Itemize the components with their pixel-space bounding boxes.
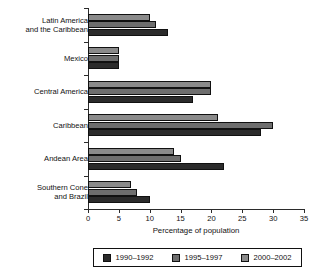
legend-label: 2000–2002 — [253, 253, 291, 262]
bar-group — [88, 142, 304, 176]
x-tick-label: 5 — [107, 214, 131, 223]
bar — [88, 88, 211, 95]
bar — [88, 163, 224, 170]
category-label: Caribbean — [4, 121, 88, 130]
category-label: Mexico — [4, 54, 88, 63]
bar — [88, 148, 174, 155]
x-tick — [88, 209, 89, 213]
category-label-line: and Brazil — [4, 192, 88, 201]
category-label: Central America — [4, 87, 88, 96]
legend-label: 1995–1997 — [184, 253, 222, 262]
x-tick — [304, 209, 305, 213]
bar — [88, 29, 168, 36]
bar — [88, 189, 137, 196]
bar — [88, 196, 150, 203]
bar — [88, 14, 150, 21]
bar — [88, 181, 131, 188]
legend-item: 1990–1992 — [103, 253, 153, 262]
x-tick-label: 30 — [261, 214, 285, 223]
legend-swatch — [241, 254, 249, 262]
legend-swatch — [103, 254, 111, 262]
x-tick-label: 25 — [230, 214, 254, 223]
category-label-line: and the Caribbean — [4, 25, 88, 34]
bar-group — [88, 42, 304, 76]
x-tick — [242, 209, 243, 213]
x-tick — [211, 209, 212, 213]
bar-group — [88, 176, 304, 210]
bar — [88, 47, 119, 54]
category-label-line: Southern Cone — [4, 183, 88, 192]
bar-group — [88, 8, 304, 42]
x-axis-title: Percentage of population — [88, 226, 304, 235]
x-tick-label: 35 — [292, 214, 310, 223]
x-tick-label: 15 — [169, 214, 193, 223]
x-tick — [150, 209, 151, 213]
x-tick — [119, 209, 120, 213]
bar — [88, 114, 218, 121]
bar-group — [88, 109, 304, 143]
bar — [88, 96, 193, 103]
category-label-line: Caribbean — [4, 121, 88, 130]
bar — [88, 62, 119, 69]
category-label: Southern Coneand Brazil — [4, 183, 88, 201]
bar — [88, 155, 181, 162]
x-tick — [181, 209, 182, 213]
legend-swatch — [172, 254, 180, 262]
bar — [88, 122, 273, 129]
category-label: Latin Americaand the Caribbean — [4, 16, 88, 34]
legend-item: 2000–2002 — [241, 253, 291, 262]
category-label-line: Andean Area — [4, 154, 88, 163]
category-label: Andean Area — [4, 154, 88, 163]
x-tick-label: 10 — [138, 214, 162, 223]
bar-group — [88, 75, 304, 109]
bar — [88, 81, 211, 88]
x-tick-label: 0 — [76, 214, 100, 223]
category-label-line: Latin America — [4, 16, 88, 25]
category-label-line: Mexico — [4, 54, 88, 63]
legend-label: 1990–1992 — [115, 253, 153, 262]
bar-chart: Latin Americaand the CaribbeanMexicoCent… — [0, 0, 310, 278]
x-tick — [273, 209, 274, 213]
x-tick-label: 20 — [199, 214, 223, 223]
bar — [88, 21, 156, 28]
legend: 1990–19921995–19972000–2002 — [93, 248, 302, 267]
bar — [88, 55, 119, 62]
category-label-line: Central America — [4, 87, 88, 96]
bar — [88, 129, 261, 136]
plot-area — [88, 8, 304, 209]
legend-item: 1995–1997 — [172, 253, 222, 262]
